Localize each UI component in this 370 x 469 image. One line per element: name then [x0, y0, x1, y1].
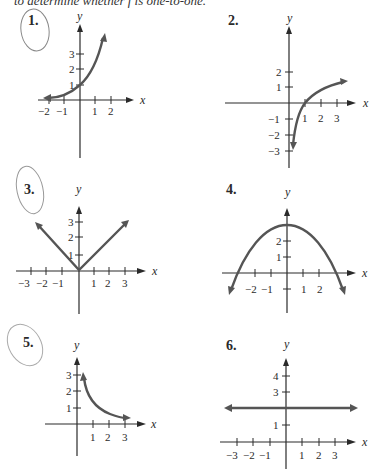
svg-text:3: 3: [332, 449, 338, 461]
svg-text:1: 1: [273, 419, 279, 431]
svg-text:−1: −1: [259, 449, 271, 461]
svg-text:3: 3: [273, 386, 279, 398]
svg-text:−2: −2: [243, 449, 255, 461]
svg-text:4: 4: [273, 370, 279, 382]
graph-6: −3−2−1 123 134 xy: [0, 0, 370, 469]
svg-text:−3: −3: [226, 449, 238, 461]
svg-text:x: x: [361, 435, 368, 449]
svg-text:2: 2: [316, 449, 322, 461]
svg-text:1: 1: [299, 449, 305, 461]
svg-text:y: y: [283, 337, 290, 351]
